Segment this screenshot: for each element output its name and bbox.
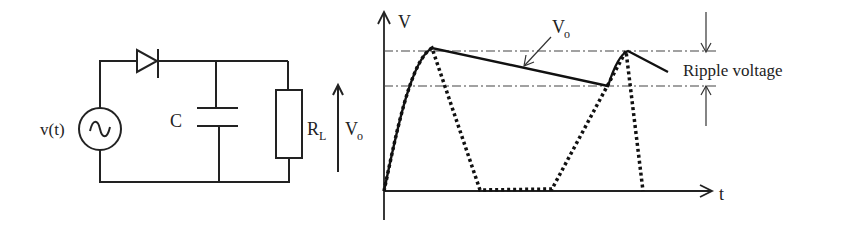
diode-icon	[137, 50, 157, 72]
rectified-input-waveform	[384, 48, 643, 191]
y-axis-label: V	[398, 12, 411, 32]
ripple-voltage-label: Ripple voltage	[683, 61, 783, 80]
left-top-wire	[100, 61, 137, 108]
sine-wave-icon	[90, 122, 110, 137]
load-resistor-icon	[276, 90, 302, 158]
x-axis-label: t	[719, 184, 724, 204]
bottom-wire	[100, 150, 290, 182]
source-label: v(t)	[40, 120, 65, 139]
resistor-label: R	[307, 119, 319, 139]
half-wave-rectifier-circuit	[79, 49, 343, 182]
waveform-graph	[378, 12, 717, 220]
vo-annotation-sub: o	[564, 27, 570, 41]
output-voltage-label-sub: o	[357, 129, 363, 143]
capacitor-label: C	[170, 111, 182, 131]
resistor-label-sub: L	[319, 129, 326, 143]
output-voltage-waveform	[384, 48, 668, 191]
rectifier-figure: v(t) C R L V o V	[0, 0, 843, 227]
